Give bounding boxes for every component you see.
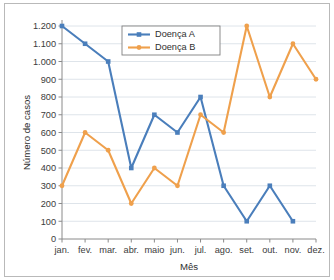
data-point-marker bbox=[291, 219, 296, 224]
data-point-marker bbox=[175, 183, 180, 188]
y-tick-label: 200 bbox=[41, 199, 56, 209]
data-point-marker bbox=[83, 130, 88, 135]
y-tick-label: 0 bbox=[51, 234, 56, 244]
x-tick-labels-group: jan.fev.mar.abr.maiojun.jul.ago.set.out.… bbox=[54, 245, 325, 255]
y-tick-label: 400 bbox=[41, 163, 56, 173]
data-point-marker bbox=[244, 24, 249, 29]
data-point-marker bbox=[152, 112, 157, 117]
x-tick-label: ago. bbox=[215, 245, 233, 255]
data-point-marker bbox=[198, 112, 203, 117]
line-chart: 01002003004005006007008009001.0001.1001.… bbox=[0, 0, 334, 280]
y-tick-label: 1.000 bbox=[33, 57, 56, 67]
data-point-marker bbox=[291, 41, 296, 46]
x-tick-label: jan. bbox=[54, 245, 70, 255]
x-tick-label: set. bbox=[239, 245, 254, 255]
legend-label-b: Doença B bbox=[155, 42, 195, 52]
legend-label-a: Doença A bbox=[155, 29, 196, 39]
x-tick-label: out. bbox=[262, 245, 277, 255]
y-tick-label: 900 bbox=[41, 75, 56, 85]
data-point-marker bbox=[129, 201, 134, 206]
data-point-marker bbox=[221, 130, 226, 135]
x-tick-label: nov. bbox=[285, 245, 302, 255]
data-point-marker bbox=[106, 148, 111, 153]
y-tick-label: 500 bbox=[41, 146, 56, 156]
y-tick-label: 700 bbox=[41, 110, 56, 120]
data-point-marker bbox=[314, 77, 319, 82]
x-axis-title: Mês bbox=[180, 261, 198, 272]
y-axis-title: Número de casos bbox=[21, 95, 32, 170]
data-point-marker bbox=[198, 95, 203, 100]
y-tick-label: 1.200 bbox=[33, 21, 56, 31]
chart-legend[interactable]: Doença ADoença B bbox=[122, 26, 220, 55]
legend-swatch-marker bbox=[137, 32, 142, 37]
y-tick-marks-group bbox=[59, 26, 63, 239]
chart-canvas: 01002003004005006007008009001.0001.1001.… bbox=[0, 0, 334, 280]
data-point-marker bbox=[175, 130, 180, 135]
data-point-marker bbox=[129, 166, 134, 171]
data-point-marker bbox=[244, 219, 249, 224]
y-tick-label: 1.100 bbox=[33, 39, 56, 49]
data-point-marker bbox=[60, 24, 65, 29]
x-tick-label: jul. bbox=[194, 245, 207, 255]
data-point-marker bbox=[60, 183, 65, 188]
y-tick-label: 800 bbox=[41, 92, 56, 102]
legend-swatch-marker bbox=[137, 45, 142, 50]
y-tick-label: 300 bbox=[41, 181, 56, 191]
data-point-marker bbox=[221, 183, 226, 188]
data-point-marker bbox=[267, 95, 272, 100]
y-tick-label: 600 bbox=[41, 128, 56, 138]
data-point-marker bbox=[83, 41, 88, 46]
data-point-marker bbox=[106, 59, 111, 64]
x-tick-label: maio bbox=[144, 245, 164, 255]
x-tick-label: jun. bbox=[169, 245, 185, 255]
y-tick-labels-group: 01002003004005006007008009001.0001.1001.… bbox=[33, 21, 56, 244]
x-tick-marks-group bbox=[62, 239, 316, 243]
data-point-marker bbox=[268, 183, 273, 188]
data-point-marker bbox=[152, 166, 157, 171]
y-tick-label: 100 bbox=[41, 217, 56, 227]
x-tick-label: mar. bbox=[99, 245, 117, 255]
x-tick-label: dez. bbox=[307, 245, 324, 255]
x-tick-label: abr. bbox=[124, 245, 139, 255]
x-tick-label: fev. bbox=[78, 245, 92, 255]
